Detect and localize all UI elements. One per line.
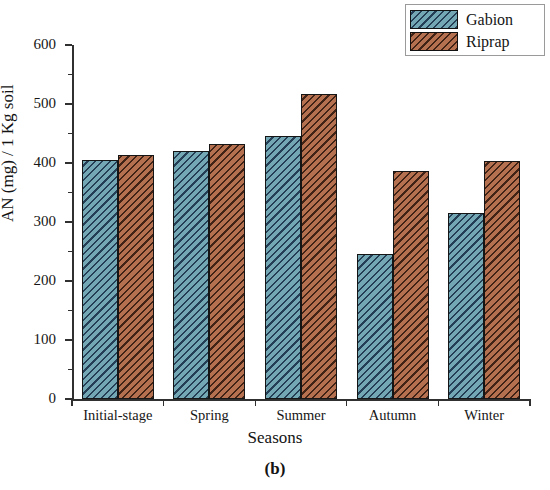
bar-riprap-winter: [484, 161, 520, 399]
y-tick-major: 300: [65, 221, 72, 222]
x-tick-major: [346, 399, 347, 406]
x-axis-line: [72, 399, 530, 401]
bar-gabion-spring: [173, 151, 209, 399]
y-tick-label: 500: [34, 95, 57, 112]
y-tick-label: 200: [34, 272, 57, 289]
y-tick-minor: [68, 251, 72, 252]
x-tick-label: Winter: [464, 407, 504, 424]
bar-gabion-autumn: [357, 254, 393, 399]
x-tick-label: Initial-stage: [83, 407, 152, 424]
x-tick-major: [529, 399, 530, 406]
y-tick-minor: [68, 133, 72, 134]
y-tick-minor: [68, 310, 72, 311]
x-tick-major: [71, 399, 72, 406]
x-tick-major: [438, 399, 439, 406]
x-tick-label: Spring: [190, 407, 229, 424]
x-tick-major: [255, 399, 256, 406]
bar-riprap-autumn: [393, 171, 429, 399]
y-tick-label: 0: [49, 390, 57, 407]
bar-gabion-initial-stage: [82, 160, 118, 399]
y-tick-label: 300: [34, 213, 57, 230]
x-axis-title: Seasons: [0, 428, 550, 448]
legend-swatch-gabion: [410, 10, 458, 29]
x-tick-label: Summer: [276, 407, 325, 424]
bar-gabion-summer: [265, 136, 301, 399]
panel-label: (b): [0, 459, 550, 479]
x-tick-label: Autumn: [369, 407, 417, 424]
chart-figure: Gabion Riprap 0100200300400500600Initial…: [0, 0, 550, 490]
y-tick-major: 400: [65, 162, 72, 163]
bar-gabion-winter: [448, 213, 484, 399]
y-tick-label: 100: [34, 331, 57, 348]
legend-item-gabion: Gabion: [410, 8, 540, 30]
y-tick-major: 100: [65, 339, 72, 340]
bar-riprap-initial-stage: [118, 155, 154, 399]
x-tick-major: [163, 399, 164, 406]
y-tick-minor: [68, 74, 72, 75]
bar-riprap-summer: [301, 94, 337, 399]
plot-area: 0100200300400500600Initial-stageSpringSu…: [72, 45, 530, 399]
y-tick-major: 200: [65, 280, 72, 281]
y-tick-major: 600: [65, 44, 72, 45]
y-tick-minor: [68, 369, 72, 370]
y-axis-line: [72, 45, 74, 399]
bar-riprap-spring: [209, 144, 245, 399]
y-tick-label: 400: [34, 154, 57, 171]
y-tick-minor: [68, 192, 72, 193]
y-tick-label: 600: [34, 36, 57, 53]
y-tick-major: 500: [65, 103, 72, 104]
y-axis-title: AN (mg) / 1 Kg soil: [0, 85, 18, 222]
legend-label-gabion: Gabion: [466, 10, 513, 29]
